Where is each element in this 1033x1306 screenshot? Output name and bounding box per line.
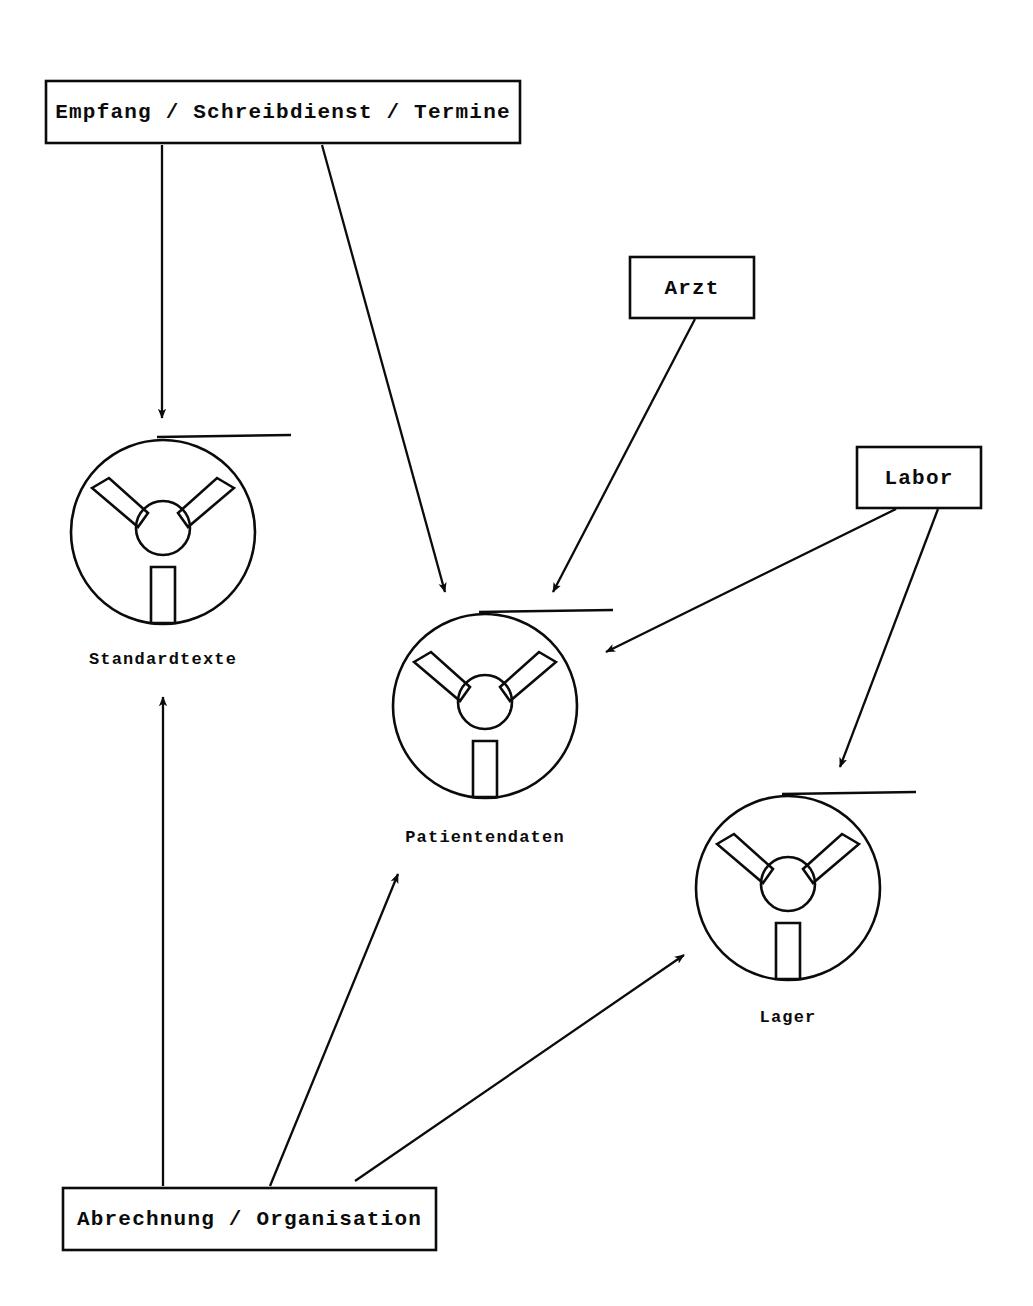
process-label-empfang: Empfang / Schreibdienst / Termine (46, 101, 520, 124)
store-label-lager: Lager (638, 1008, 938, 1027)
reel-spoke-left-icon (92, 478, 148, 527)
reel-outer-circle-icon (696, 796, 880, 980)
reel-spoke-right-icon (500, 652, 556, 701)
reel-spoke-right-icon (803, 834, 859, 883)
flow-labor-patientendaten[interactable] (606, 509, 896, 652)
tape-line-icon (479, 610, 613, 612)
flow-arzt-patientendaten[interactable] (553, 319, 695, 592)
data-store-standardtexte[interactable] (71, 435, 291, 624)
reel-spoke-bottom-icon (151, 567, 175, 623)
store-label-standardtexte: Standardtexte (13, 650, 313, 669)
reel-spoke-right-icon (178, 478, 234, 527)
reel-spoke-left-icon (717, 834, 773, 883)
reel-outer-circle-icon (393, 614, 577, 798)
flow-empfang-patientendaten[interactable] (322, 145, 445, 592)
process-label-labor: Labor (857, 467, 981, 490)
reel-spoke-bottom-icon (473, 741, 497, 797)
data-store-patientendaten[interactable] (393, 610, 613, 798)
reel-outer-circle-icon (71, 440, 255, 624)
reel-spoke-left-icon (414, 652, 470, 701)
reel-spoke-bottom-icon (776, 923, 800, 979)
tape-line-icon (782, 792, 916, 794)
flow-labor-lager[interactable] (840, 509, 938, 767)
process-label-abrechnung: Abrechnung / Organisation (63, 1208, 436, 1231)
diagram-canvas: Empfang / Schreibdienst / Termine Arzt L… (0, 0, 1033, 1306)
flow-abrechnung-patientendaten[interactable] (270, 874, 398, 1186)
tape-line-icon (157, 435, 291, 437)
process-label-arzt: Arzt (630, 277, 754, 300)
data-store-lager[interactable] (696, 792, 916, 980)
store-label-patientendaten: Patientendaten (335, 828, 635, 847)
flow-abrechnung-lager[interactable] (355, 955, 684, 1181)
